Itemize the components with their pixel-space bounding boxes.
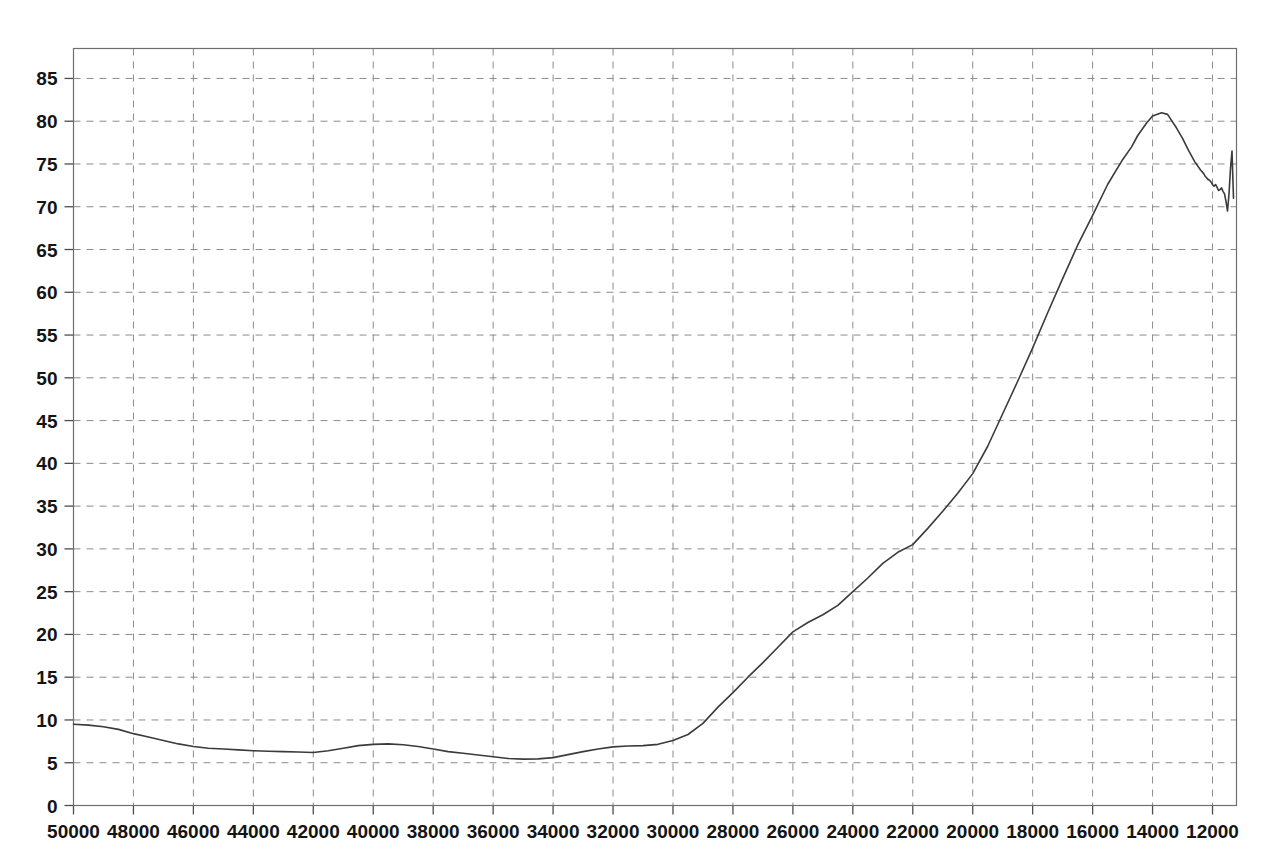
plot-frame — [74, 49, 1237, 806]
y-tick-label: 30 — [36, 539, 57, 560]
x-tick-label: 26000 — [766, 821, 819, 842]
y-tick-label: 60 — [36, 282, 57, 303]
x-tick-label: 38000 — [407, 821, 460, 842]
y-tick-label: 20 — [36, 624, 57, 645]
x-tick-label: 32000 — [587, 821, 640, 842]
y-tick-label: 25 — [36, 582, 58, 603]
y-tick-label: 10 — [36, 710, 57, 731]
y-tick-label: 55 — [36, 325, 58, 346]
y-tick-label: 0 — [47, 796, 58, 817]
x-tick-label: 30000 — [647, 821, 700, 842]
x-tick-label: 16000 — [1066, 821, 1119, 842]
x-tick-label: 46000 — [167, 821, 220, 842]
x-tick-label: 20000 — [946, 821, 999, 842]
y-tick-label: 40 — [36, 453, 57, 474]
y-tick-label: 50 — [36, 368, 57, 389]
x-tick-label: 34000 — [527, 821, 580, 842]
x-tick-label: 14000 — [1126, 821, 1179, 842]
x-tick-label: 28000 — [707, 821, 760, 842]
y-tick-label: 15 — [36, 667, 58, 688]
x-tick-label: 22000 — [886, 821, 939, 842]
x-tick-label: 18000 — [1006, 821, 1059, 842]
x-tick-label: 42000 — [287, 821, 340, 842]
x-tick-label: 50000 — [47, 821, 100, 842]
y-tick-label: 45 — [36, 411, 58, 432]
y-tick-label: 65 — [36, 240, 58, 261]
data-series — [74, 113, 1234, 759]
y-tick-label: 75 — [36, 154, 58, 175]
x-tick-label: 40000 — [347, 821, 400, 842]
x-tick-label: 48000 — [107, 821, 160, 842]
y-axis-tick-labels: 0510152025303540455055606570758085 — [36, 68, 58, 816]
grid-vertical — [74, 49, 1213, 806]
x-axis-tick-labels: 5000048000460004400042000400003800036000… — [47, 821, 1239, 842]
x-tick-label: 12000 — [1186, 821, 1239, 842]
series-line — [74, 113, 1209, 759]
y-tick-label: 80 — [36, 111, 57, 132]
x-tick-label: 24000 — [826, 821, 879, 842]
x-tick-label: 44000 — [227, 821, 280, 842]
y-tick-label: 5 — [47, 753, 58, 774]
y-tick-label: 70 — [36, 197, 57, 218]
y-tick-label: 85 — [36, 68, 58, 89]
y-tick-label: 35 — [36, 496, 58, 517]
chart-container: 0510152025303540455055606570758085 50000… — [0, 0, 1286, 862]
line-chart: 0510152025303540455055606570758085 50000… — [0, 0, 1286, 862]
x-tick-label: 36000 — [467, 821, 520, 842]
axis-ticks — [65, 78, 1213, 814]
series-line — [1208, 151, 1233, 211]
grid-horizontal — [74, 78, 1237, 805]
